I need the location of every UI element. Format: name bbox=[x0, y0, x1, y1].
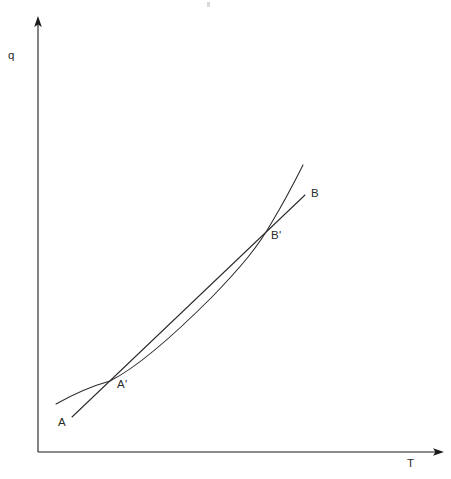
scan-artifact-speck bbox=[207, 2, 210, 7]
annotation-label-A-prime: A' bbox=[117, 379, 127, 391]
plot-svg bbox=[0, 0, 451, 479]
annotation-label-A: A bbox=[58, 417, 66, 429]
annotation-label-B-prime: B' bbox=[271, 230, 281, 242]
annotation-label-B: B bbox=[311, 188, 319, 200]
y-axis-label: q bbox=[8, 50, 15, 62]
figure-canvas: q T A A' B' B bbox=[0, 0, 451, 479]
equilibrium-curve bbox=[56, 165, 303, 404]
x-axis bbox=[38, 448, 444, 456]
y-axis bbox=[34, 16, 42, 452]
x-axis-label: T bbox=[407, 458, 414, 470]
